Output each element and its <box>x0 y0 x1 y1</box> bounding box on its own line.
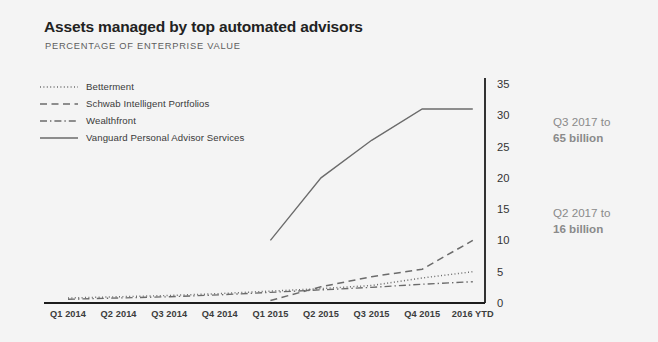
legend-item-vanguard-personal-advisor-services[interactable]: Vanguard Personal Advisor Services <box>40 129 300 146</box>
series-line-vanguard-personal-advisor-services <box>270 109 472 240</box>
y-tick-label: 10 <box>497 234 509 246</box>
x-tick-label: Q2 2014 <box>101 309 137 319</box>
y-tick-label: 5 <box>497 266 503 278</box>
x-tick-label: Q3 2014 <box>151 309 187 319</box>
legend-item-schwab-intelligent-portfolios[interactable]: Schwab Intelligent Portfolios <box>40 95 300 112</box>
legend-item-label: Schwab Intelligent Portfolios <box>86 98 209 109</box>
series-line-schwab-intelligent-portfolios <box>270 240 472 300</box>
y-tick-label: 0 <box>497 297 503 309</box>
legend-item-label: Wealthfront <box>86 115 136 126</box>
series-line-wealthfront <box>68 282 473 300</box>
annotation-value: 16 billion <box>553 221 610 237</box>
x-tick-label: Q1 2014 <box>50 309 86 319</box>
legend-swatch-dash-dot-icon <box>40 115 78 127</box>
legend-item-label: Vanguard Personal Advisor Services <box>86 132 244 143</box>
chart-subtitle: PERCENTAGE OF ENTERPRISE VALUE <box>45 41 241 51</box>
annotation-q3-2017: Q3 2017 to 65 billion <box>553 114 610 145</box>
legend-swatch-solid-icon <box>40 132 78 144</box>
legend-swatch-dashed-icon <box>40 98 78 110</box>
annotation-label: Q3 2017 to <box>553 114 610 130</box>
chart-legend: BettermentSchwab Intelligent PortfoliosW… <box>40 78 300 146</box>
legend-item-label: Betterment <box>86 81 134 92</box>
x-tick-label: Q4 2015 <box>404 309 440 319</box>
series-line-betterment <box>68 272 473 298</box>
x-tick-label: Q1 2015 <box>252 309 288 319</box>
annotation-label: Q2 2017 to <box>553 205 610 221</box>
annotation-q2-2017: Q2 2017 to 16 billion <box>553 205 610 236</box>
x-tick-label: Q4 2014 <box>202 309 238 319</box>
annotation-value: 65 billion <box>553 130 610 146</box>
y-tick-label: 35 <box>497 78 509 90</box>
x-tick-label: Q3 2015 <box>354 309 390 319</box>
x-tick-label: 2016 YTD <box>452 309 494 319</box>
y-tick-label: 20 <box>497 172 509 184</box>
x-tick-label: Q2 2015 <box>303 309 339 319</box>
legend-item-wealthfront[interactable]: Wealthfront <box>40 112 300 129</box>
y-tick-label: 25 <box>497 141 509 153</box>
y-tick-label: 30 <box>497 109 509 121</box>
legend-item-betterment[interactable]: Betterment <box>40 78 300 95</box>
chart-figure: Assets managed by top automated advisors… <box>0 0 658 342</box>
plot-area <box>0 0 658 342</box>
legend-swatch-dotted-icon <box>40 81 78 93</box>
page-title: Assets managed by top automated advisors <box>44 18 363 36</box>
y-tick-label: 15 <box>497 203 509 215</box>
